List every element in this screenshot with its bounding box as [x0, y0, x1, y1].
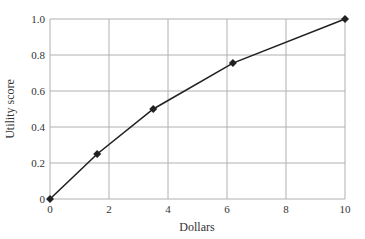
- y-tick-label: 0.6: [31, 85, 45, 97]
- data-point-markers: [46, 15, 349, 203]
- utility-chart: 0246810 00.20.40.60.81.0 Dollars Utility…: [0, 0, 365, 239]
- y-axis-ticks: 00.20.40.60.81.0: [31, 13, 45, 205]
- x-tick-label: 0: [47, 203, 53, 215]
- y-tick-label: 0: [40, 193, 46, 205]
- x-tick-label: 6: [224, 203, 230, 215]
- x-axis-ticks: 0246810: [47, 203, 351, 215]
- grid-lines: [50, 19, 345, 199]
- x-axis-label: Dollars: [179, 220, 215, 234]
- y-tick-label: 0.4: [31, 121, 45, 133]
- utility-curve-line: [50, 19, 345, 199]
- x-tick-label: 8: [283, 203, 289, 215]
- x-tick-label: 2: [106, 203, 112, 215]
- x-tick-label: 10: [340, 203, 352, 215]
- y-tick-label: 1.0: [31, 13, 45, 25]
- y-tick-label: 0.8: [31, 49, 45, 61]
- y-tick-label: 0.2: [31, 157, 45, 169]
- diamond-marker-icon: [341, 15, 349, 23]
- diamond-marker-icon: [229, 59, 237, 67]
- y-axis-label: Utility score: [3, 79, 17, 139]
- x-tick-label: 4: [165, 203, 171, 215]
